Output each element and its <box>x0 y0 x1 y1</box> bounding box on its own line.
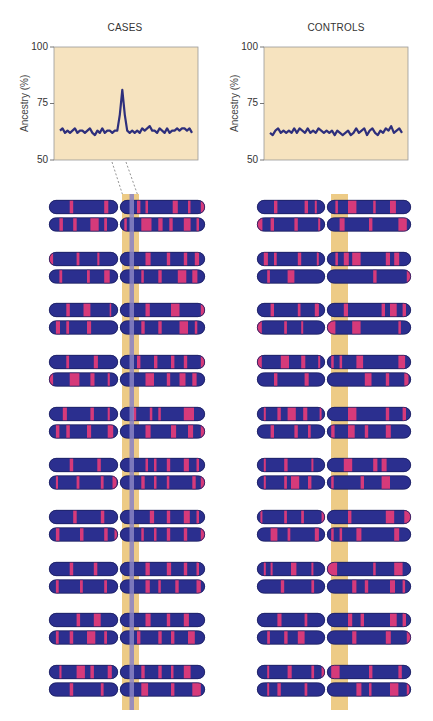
chromosome-band <box>169 218 172 232</box>
chromosome-band <box>403 303 406 317</box>
chromosome-band <box>77 252 80 266</box>
chromosome-band <box>352 631 356 645</box>
chromosome-band <box>201 355 205 369</box>
controls-ancestry-chart <box>260 47 408 160</box>
chromosome-band <box>365 580 368 594</box>
chromosome-band <box>386 631 391 645</box>
ancestry-line <box>60 90 192 135</box>
chromosome-band <box>197 510 200 524</box>
chromosome-band <box>94 355 98 369</box>
chromosome-band <box>394 252 399 266</box>
chromosome-band <box>146 562 150 576</box>
connector-right <box>126 162 138 196</box>
chromosome-band <box>344 458 352 472</box>
chromosome-band <box>403 407 406 421</box>
chromosome-band <box>59 270 62 284</box>
chromosome <box>49 407 205 421</box>
chromosome-band <box>257 218 262 232</box>
chromosome-band <box>267 683 269 697</box>
figure: CASES 100 75 50 Ancestry (%) CONTROLS 10… <box>0 0 433 721</box>
chromosome-band <box>184 510 190 524</box>
chromosome-band <box>141 270 144 284</box>
chromosome-band <box>318 218 320 232</box>
chromosome <box>49 303 205 317</box>
cases-ancestry-stripe <box>130 194 135 710</box>
chromosome-band <box>171 355 174 369</box>
chromosome-band <box>141 683 148 697</box>
chromosome-band <box>154 476 157 490</box>
chromosome-band <box>331 528 334 542</box>
chromosome-band <box>344 252 349 266</box>
chromosome-band <box>331 665 339 679</box>
chromosome-band <box>361 476 364 490</box>
chromosome-band <box>171 303 180 317</box>
controls-ytick-100: 100 <box>228 41 258 52</box>
chromosome-band <box>308 476 311 490</box>
chromosome-band <box>66 355 69 369</box>
chromosome-band <box>77 613 81 627</box>
chromosome-band <box>373 562 376 576</box>
chromosome <box>257 613 411 627</box>
chromosome-band <box>271 562 273 576</box>
chromosome-band <box>146 373 155 387</box>
chromosome <box>257 373 411 387</box>
chromosome-band <box>373 200 376 214</box>
chromosome-band <box>184 528 187 542</box>
chromosome-band <box>184 458 189 472</box>
chromosome <box>257 580 411 594</box>
chromosome-band <box>192 683 201 697</box>
chromosome-band <box>150 510 154 524</box>
chromosome-band <box>87 321 91 335</box>
chromosome-band <box>197 218 200 232</box>
chromosome-band <box>124 218 127 232</box>
chromosome-band <box>404 510 411 524</box>
chart-plot-area <box>264 47 408 160</box>
chromosome-band <box>84 303 91 317</box>
chromosome-band <box>141 218 151 232</box>
chromosome-band <box>315 303 319 317</box>
chromosome-band <box>398 665 401 679</box>
chromosome-band <box>264 562 266 576</box>
chromosome-band <box>150 407 153 421</box>
chromosome-band <box>277 407 280 421</box>
chromosome-band <box>348 425 355 439</box>
chromosome-band <box>327 562 337 576</box>
chromosome-band <box>386 425 391 439</box>
chromosome-band <box>348 613 352 627</box>
chromosome-band <box>184 355 187 369</box>
chromosome-band <box>301 355 305 369</box>
chromosome-band <box>318 355 320 369</box>
chromosome-band <box>146 425 151 439</box>
chromosome-band <box>305 613 308 627</box>
chromosome-band <box>390 613 397 627</box>
chromosome-band <box>390 303 397 317</box>
chromosome-band <box>167 458 170 472</box>
chromosome-band <box>167 373 170 387</box>
chromosome-band <box>188 425 193 439</box>
controls-y-axis-label: Ancestry (%) <box>229 75 240 132</box>
chromosome-band <box>331 476 334 490</box>
cases-ancestry-stripe-bar <box>130 194 135 710</box>
chromosome-band <box>271 528 278 542</box>
chromosome-band <box>154 355 157 369</box>
chromosome <box>49 613 205 627</box>
chromosome-band <box>188 631 195 645</box>
chromosome-band <box>369 665 372 679</box>
chromosome-band <box>173 200 178 214</box>
chromosome <box>49 355 205 369</box>
cases-locus-band <box>122 194 139 710</box>
chromosome-band <box>87 631 95 645</box>
chromosome-band <box>274 252 277 266</box>
chromosome-band <box>277 613 281 627</box>
chromosome-band <box>56 580 59 594</box>
chromosome-band <box>137 355 140 369</box>
chromosome-band <box>167 510 170 524</box>
chromosome-band <box>80 580 83 594</box>
chromosome-band <box>197 580 201 594</box>
chromosome-band <box>158 218 162 232</box>
chromosome-band <box>141 528 144 542</box>
chromosome-band <box>108 407 110 421</box>
chromosome-band <box>167 252 170 266</box>
chromosome-band <box>361 613 364 627</box>
chromosome-band <box>348 200 356 214</box>
